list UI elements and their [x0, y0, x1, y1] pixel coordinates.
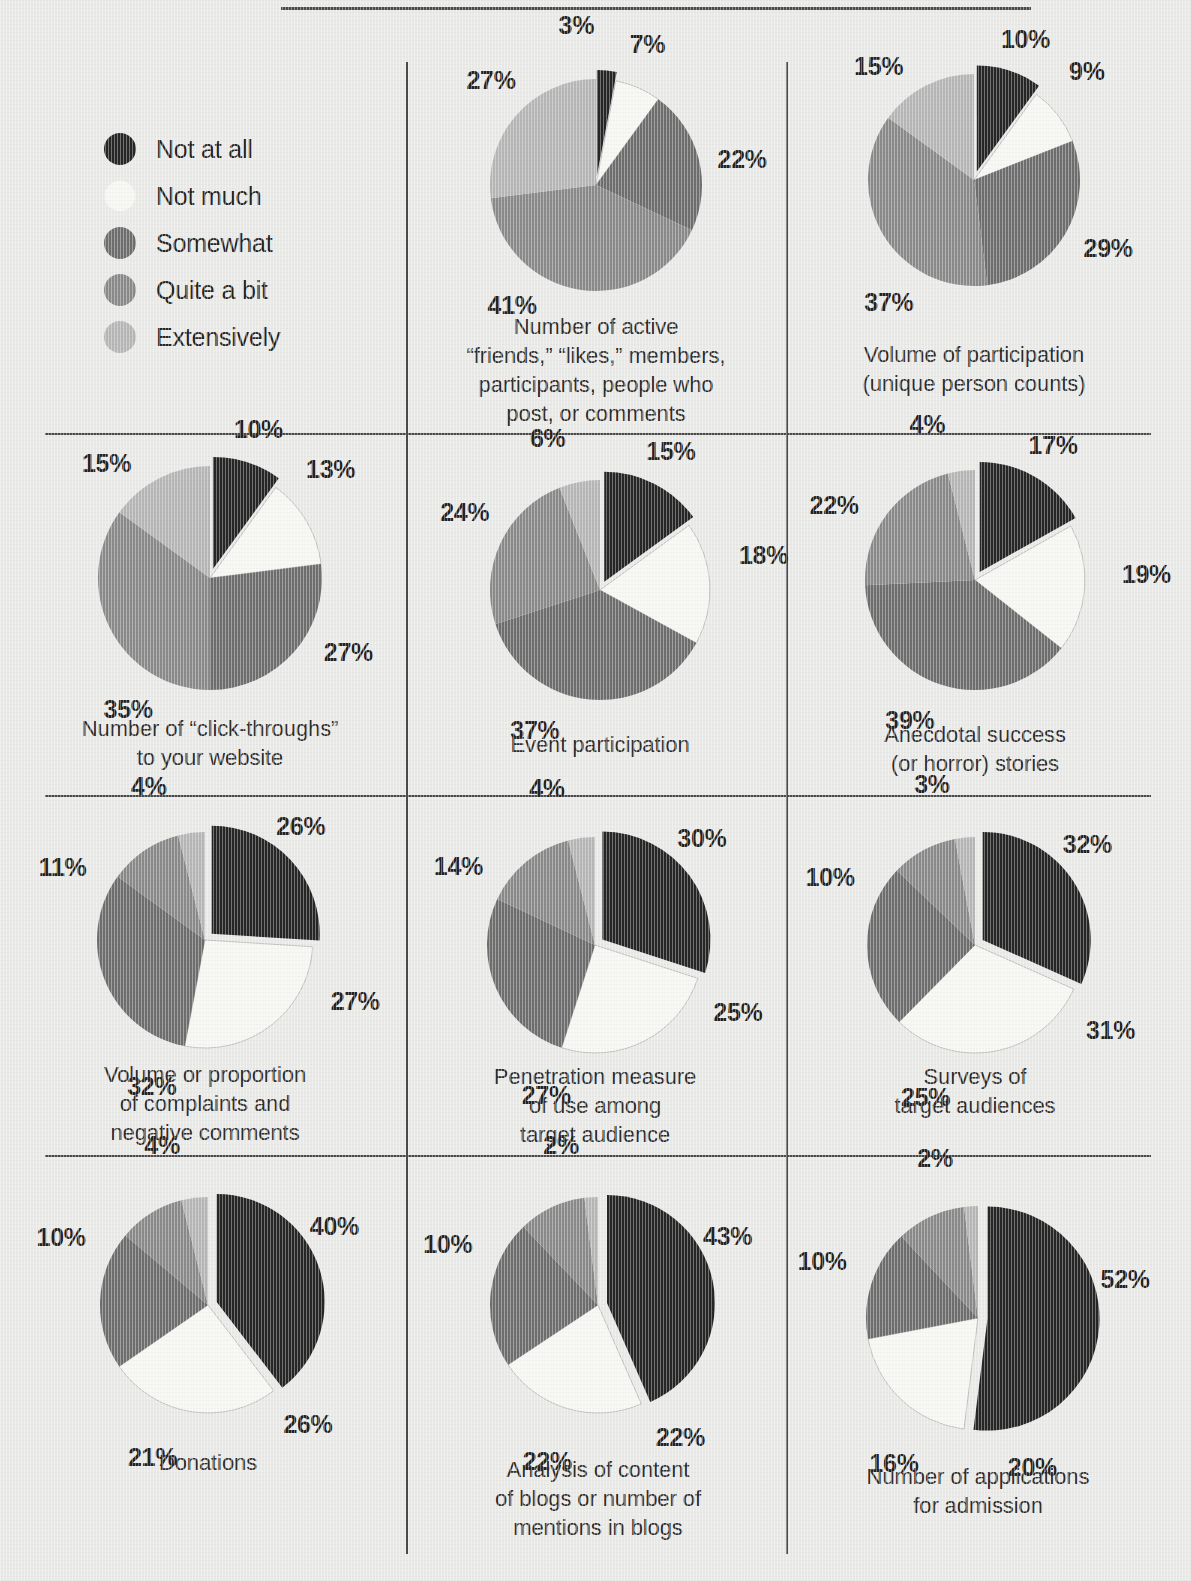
pie-slice-percent-label: 10% — [423, 1230, 472, 1259]
pie-svg — [788, 1138, 1168, 1498]
pie-slice-percent-label: 4% — [131, 771, 167, 800]
pie-graphic: 10%13%27%35%15% — [20, 398, 400, 758]
pie-slice-percent-label: 52% — [1101, 1264, 1150, 1293]
pie-svg — [20, 398, 400, 758]
pie-slice-percent-label: 14% — [434, 852, 483, 881]
pie-chart-cell: 43%22%22%10%2% — [408, 1125, 788, 1485]
pie-chart-cell: 52%20%16%10%2% — [788, 1138, 1168, 1498]
pie-chart-caption: Number of applications for admission — [778, 1462, 1178, 1520]
pie-graphic: 10%9%29%37%15% — [784, 0, 1164, 360]
pie-slice-percent-label: 22% — [718, 145, 767, 174]
pie-slice-percent-label: 6% — [530, 424, 566, 453]
legend-swatch-icon — [104, 227, 136, 259]
pie-slice-percent-label: 2% — [917, 1143, 953, 1172]
pie-chart-cell: 3%7%22%41%27% — [406, 5, 786, 365]
pie-graphic: 40%26%21%10%4% — [18, 1125, 398, 1485]
pie-graphic: 17%19%39%22%4% — [785, 400, 1165, 760]
legend-swatch-icon — [104, 321, 136, 353]
pie-chart-caption: Event participation — [400, 730, 800, 759]
legend-item-label: Quite a bit — [156, 276, 268, 305]
pie-slice-percent-label: 7% — [630, 29, 666, 58]
legend-item: Not at all — [104, 132, 280, 166]
pie-slice-percent-label: 27% — [324, 637, 373, 666]
pie-slice-percent-label: 26% — [283, 1410, 332, 1439]
pie-chart-caption: Donations — [8, 1448, 408, 1477]
pie-slice-percent-label: 29% — [1084, 234, 1133, 263]
legend-item-label: Extensively — [156, 323, 280, 352]
pie-chart-cell: 40%26%21%10%4% — [18, 1125, 398, 1485]
pie-chart-cell: 10%13%27%35%15% — [20, 398, 400, 758]
pie-slice — [973, 1207, 1099, 1431]
pie-slice-percent-label: 31% — [1086, 1015, 1135, 1044]
pie-svg — [18, 1125, 398, 1485]
pie-slice — [185, 940, 313, 1048]
pie-chart-caption: Surveys of target audiences — [775, 1062, 1175, 1120]
pie-slice-percent-label: 19% — [1122, 560, 1171, 589]
legend-item-label: Somewhat — [156, 229, 273, 258]
pie-slice-percent-label: 22% — [656, 1422, 705, 1451]
pie-slice-percent-label: 32% — [1063, 829, 1112, 858]
legend-item: Somewhat — [104, 226, 280, 260]
legend-item-label: Not at all — [156, 135, 253, 164]
pie-slice-percent-label: 22% — [810, 491, 859, 520]
pie-slice-percent-label: 40% — [310, 1212, 359, 1241]
pie-slice-percent-label: 4% — [144, 1131, 180, 1160]
pie-svg — [410, 410, 790, 770]
legend-item: Extensively — [104, 320, 280, 354]
legend-item-label: Not much — [156, 182, 261, 211]
pie-slice-percent-label: 13% — [306, 455, 355, 484]
pie-svg — [784, 0, 1164, 360]
pie-svg — [408, 1125, 788, 1485]
pie-slice — [490, 79, 596, 198]
legend-item: Not much — [104, 179, 280, 213]
legend-item: Quite a bit — [104, 273, 280, 307]
pie-chart-caption: Volume of participation (unique person c… — [774, 340, 1174, 398]
legend: Not at allNot muchSomewhatQuite a bitExt… — [104, 132, 280, 354]
pie-chart-cell: 15%18%37%24%6% — [410, 410, 790, 770]
pie-slice-percent-label: 2% — [543, 1131, 579, 1160]
pie-slice-percent-label: 27% — [331, 986, 380, 1015]
legend-swatch-icon — [104, 180, 136, 212]
pie-slice-percent-label: 25% — [713, 997, 762, 1026]
pie-chart-cell: 17%19%39%22%4% — [785, 400, 1165, 760]
pie-svg — [406, 5, 786, 365]
pie-slice-percent-label: 9% — [1069, 57, 1105, 86]
pie-slice-percent-label: 15% — [82, 449, 131, 478]
pie-slice — [602, 832, 710, 973]
pie-slice-percent-label: 10% — [234, 414, 283, 443]
pie-slice — [212, 826, 320, 941]
pie-slice-percent-label: 10% — [806, 863, 855, 892]
pie-svg — [785, 400, 1165, 760]
pie-slice — [210, 564, 322, 690]
pie-slice-percent-label: 10% — [1001, 24, 1050, 53]
pie-slice-percent-label: 3% — [559, 11, 595, 40]
pie-graphic: 3%7%22%41%27% — [406, 5, 786, 365]
pie-slice-percent-label: 27% — [466, 66, 515, 95]
pie-slice-percent-label: 43% — [703, 1222, 752, 1251]
pie-slice-percent-label: 15% — [646, 436, 695, 465]
pie-slice-percent-label: 10% — [798, 1247, 847, 1276]
pie-slice-percent-label: 4% — [529, 774, 565, 803]
pie-chart-caption: Analysis of content of blogs or number o… — [398, 1455, 798, 1542]
pie-slice-percent-label: 17% — [1029, 430, 1078, 459]
legend-swatch-icon — [104, 133, 136, 165]
pie-graphic: 52%20%16%10%2% — [788, 1138, 1168, 1498]
pie-slice-percent-label: 30% — [677, 824, 726, 853]
pie-slice-percent-label: 11% — [39, 853, 87, 882]
pie-graphic: 43%22%22%10%2% — [408, 1125, 788, 1485]
pie-slice-percent-label: 24% — [440, 497, 489, 526]
pie-slice-percent-label: 4% — [910, 410, 946, 439]
pie-slice-percent-label: 10% — [37, 1222, 86, 1251]
pie-chart-cell: 10%9%29%37%15% — [784, 0, 1164, 360]
pie-slice-percent-label: 15% — [854, 52, 903, 81]
pie-graphic: 15%18%37%24%6% — [410, 410, 790, 770]
pie-slice-percent-label: 18% — [739, 541, 788, 570]
pie-slice-percent-label: 3% — [914, 770, 950, 799]
legend-swatch-icon — [104, 274, 136, 306]
pie-slice-percent-label: 26% — [276, 811, 325, 840]
pie-slice-percent-label: 37% — [864, 287, 913, 316]
